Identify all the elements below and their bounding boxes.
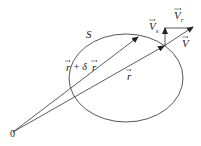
V-label: V xyxy=(182,38,189,49)
Vr-label: Vr xyxy=(174,10,183,24)
r-label: r xyxy=(127,71,131,82)
r-plus-dr-label-r: r xyxy=(66,62,70,73)
Vs-sub: s xyxy=(156,27,159,35)
Vs-main: V xyxy=(149,20,156,32)
vector-r-plus-dr xyxy=(13,37,138,132)
r-plus-dr-label-plus: + δ xyxy=(73,62,87,72)
Vr-main: V xyxy=(174,9,181,21)
vector-r xyxy=(13,46,164,132)
origin-label: 0 xyxy=(10,129,15,139)
Vr-sub: r xyxy=(181,16,184,24)
Vs-label: Vs xyxy=(149,21,158,35)
surface-label: S xyxy=(86,29,92,40)
diagram-graphics xyxy=(0,0,201,146)
r-plus-dr-label-r2: r xyxy=(92,62,96,73)
vector-diagram: S 0 r r + δ r V Vs Vr xyxy=(0,0,201,146)
surface-ellipse xyxy=(69,34,183,122)
